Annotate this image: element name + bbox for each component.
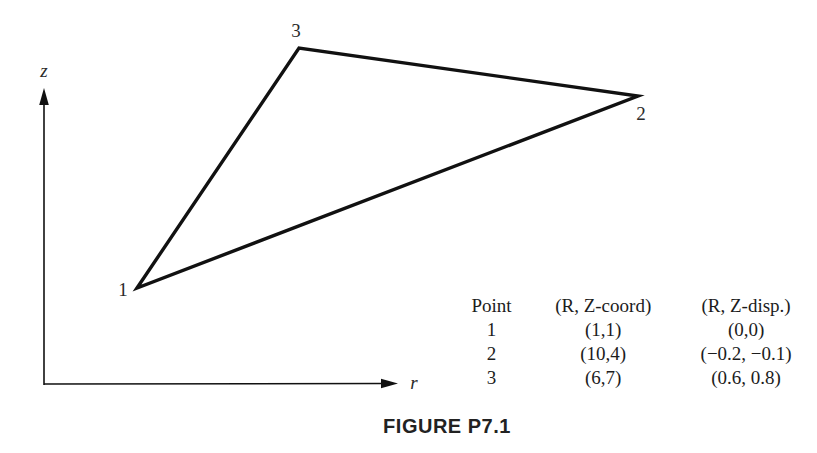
table-cell-coord: (10,4) bbox=[531, 342, 675, 366]
table-row: 3 (6,7) (0.6, 0.8) bbox=[452, 366, 817, 390]
table-row: 2 (10,4) (−0.2, −0.1) bbox=[452, 342, 817, 366]
table-cell-point: 2 bbox=[452, 342, 531, 366]
r-axis-label: r bbox=[410, 373, 417, 392]
table-cell-point: 3 bbox=[452, 366, 531, 390]
table-header-point: Point bbox=[452, 294, 531, 318]
figure-caption: FIGURE P7.1 bbox=[383, 415, 511, 438]
z-axis-arrowhead-icon bbox=[39, 88, 49, 105]
table-cell-coord: (6,7) bbox=[531, 366, 675, 390]
vertex-label-2: 2 bbox=[636, 104, 646, 123]
coordinates-table: Point (R, Z-coord) (R, Z-disp.) 1 (1,1) … bbox=[452, 294, 817, 390]
figure-p7-1: z r 1 2 3 Point (R, Z-coord) (R, Z-disp.… bbox=[0, 0, 817, 453]
table-cell-coord: (1,1) bbox=[531, 318, 675, 342]
r-axis-arrowhead-icon bbox=[381, 379, 398, 389]
table-header-disp: (R, Z-disp.) bbox=[675, 294, 817, 318]
triangle-element bbox=[137, 48, 638, 288]
z-axis-label: z bbox=[40, 61, 47, 80]
table-cell-disp: (0.6, 0.8) bbox=[675, 366, 817, 390]
table-cell-point: 1 bbox=[452, 318, 531, 342]
table-row: 1 (1,1) (0,0) bbox=[452, 318, 817, 342]
table-cell-disp: (0,0) bbox=[675, 318, 817, 342]
r-axis-line bbox=[44, 384, 386, 385]
table-header-row: Point (R, Z-coord) (R, Z-disp.) bbox=[452, 294, 817, 318]
vertex-label-1: 1 bbox=[118, 280, 128, 299]
table-header-coord: (R, Z-coord) bbox=[531, 294, 675, 318]
vertex-label-3: 3 bbox=[291, 21, 301, 40]
table-cell-disp: (−0.2, −0.1) bbox=[675, 342, 817, 366]
